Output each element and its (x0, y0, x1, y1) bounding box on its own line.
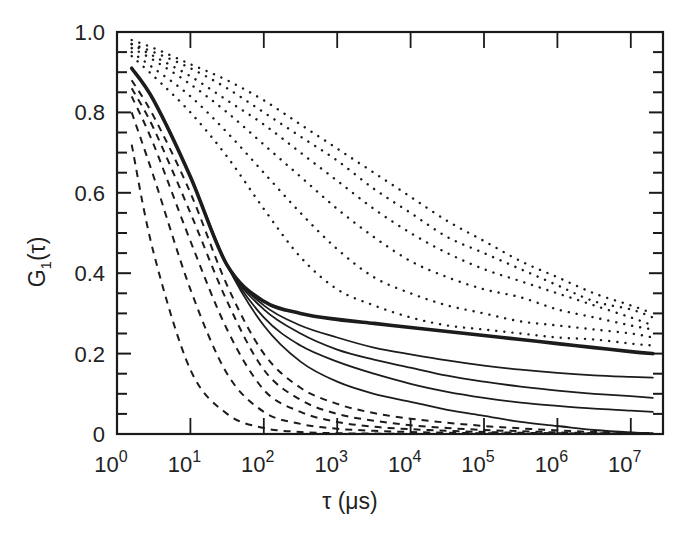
x-tick-label: 104 (388, 448, 421, 477)
y-tick-label: 0.2 (74, 342, 105, 367)
y-axis-ticks: 00.20.40.60.81.0 (74, 20, 663, 447)
series-dashed-4 (132, 88, 653, 434)
series-solid-2 (132, 68, 653, 412)
series-solid-3 (132, 68, 653, 398)
x-axis-title: τ (μs) (322, 488, 378, 514)
series-dashed-3 (132, 96, 653, 434)
y-tick-label: 1.0 (74, 20, 105, 45)
x-tick-label: 103 (315, 448, 348, 477)
series-dotted-1 (132, 56, 653, 346)
y-tick-label: 0 (93, 422, 105, 447)
y-tick-label: 0.6 (74, 181, 105, 206)
x-tick-label: 107 (608, 448, 641, 477)
series-dotted-6 (132, 40, 653, 313)
series-dashed-5 (132, 80, 653, 433)
x-tick-label: 106 (535, 448, 568, 477)
correlation-chart: 00.20.40.60.81.0 10010110210310410510610… (0, 0, 681, 534)
svg-text:G1(τ): G1(τ) (24, 237, 54, 288)
series-dotted-2 (132, 52, 653, 337)
series-layer (132, 40, 653, 434)
series-dashed-2 (132, 112, 653, 434)
x-tick-label: 102 (241, 448, 274, 477)
series-solid-thick (132, 68, 653, 353)
x-axis-ticks: 100101102103104105106107 (94, 32, 641, 477)
y-tick-label: 0.4 (74, 261, 105, 286)
x-tick-label: 100 (94, 448, 127, 477)
series-dotted-3 (132, 48, 653, 329)
x-tick-label: 105 (461, 448, 494, 477)
series-dotted-5 (132, 44, 653, 317)
y-tick-label: 0.8 (74, 100, 105, 125)
y-axis-title: G1(τ) (24, 237, 54, 288)
x-tick-label: 101 (168, 448, 201, 477)
